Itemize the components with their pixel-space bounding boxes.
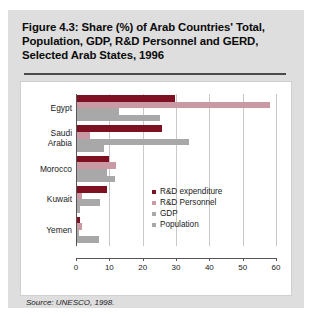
bar-rd-personnel <box>77 102 270 109</box>
bar-rd-expenditure <box>77 156 109 163</box>
legend-item: R&D Personnel <box>152 197 222 208</box>
x-tick-mark <box>276 258 277 261</box>
bar-population <box>77 206 80 213</box>
bar-rd-expenditure <box>77 217 80 224</box>
x-tick-mark <box>176 258 177 261</box>
bar-rd-personnel <box>77 132 90 139</box>
bar-gdp <box>77 169 107 176</box>
bar-population <box>77 176 115 183</box>
x-tick-label: 10 <box>105 263 114 272</box>
bar-population <box>77 145 104 152</box>
legend-swatch-icon <box>152 190 156 194</box>
legend-swatch-icon <box>152 201 156 205</box>
category-label: Morocco <box>20 165 72 175</box>
source-note: Source: UNESCO, 1998. <box>26 298 114 307</box>
x-tick-mark <box>109 258 110 261</box>
legend-swatch-icon <box>152 223 156 227</box>
chart-card: 0102030405060 EgyptSaudi ArabiaMoroccoKu… <box>21 82 291 295</box>
x-tick-label: 40 <box>205 263 214 272</box>
legend-swatch-icon <box>152 212 156 216</box>
x-tick-label: 60 <box>272 263 281 272</box>
x-tick-mark <box>76 258 77 261</box>
legend-item: Population <box>152 219 222 230</box>
category-label: Egypt <box>20 104 72 114</box>
bar-group: Saudi Arabia <box>77 124 276 154</box>
x-tick-label: 20 <box>138 263 147 272</box>
legend-label: Population <box>160 220 199 229</box>
legend-item: GDP <box>152 208 222 219</box>
x-tick-label: 0 <box>74 263 78 272</box>
bar-gdp <box>77 230 79 237</box>
y-axis-line <box>76 94 77 246</box>
gridline <box>276 94 277 246</box>
bar-group: Egypt <box>77 94 276 124</box>
bar-population <box>77 115 160 122</box>
figure-title: Figure 4.3: Share (%) of Arab Countries'… <box>22 20 292 63</box>
chart-legend: R&D expenditureR&D PersonnelGDPPopulatio… <box>152 186 222 230</box>
x-tick-mark <box>209 258 210 261</box>
bar-rd-personnel <box>77 162 116 169</box>
title-divider <box>24 73 286 75</box>
x-tick-mark <box>143 258 144 261</box>
bar-rd-personnel <box>77 223 82 230</box>
bar-gdp <box>77 108 119 115</box>
x-tick-mark <box>243 258 244 261</box>
bar-gdp <box>77 139 189 146</box>
legend-label: R&D expenditure <box>160 187 222 196</box>
category-label: Yemen <box>20 226 72 236</box>
bar-rd-personnel <box>77 193 82 200</box>
bar-group: Morocco <box>77 155 276 185</box>
bar-population <box>77 236 99 243</box>
category-label: Kuwait <box>20 195 72 205</box>
legend-label: R&D Personnel <box>160 198 216 207</box>
category-label: Saudi Arabia <box>20 129 72 148</box>
figure-panel: Figure 4.3: Share (%) of Arab Countries'… <box>8 10 304 308</box>
bar-rd-expenditure <box>77 125 162 132</box>
x-tick-label: 50 <box>238 263 247 272</box>
x-tick-label: 30 <box>172 263 181 272</box>
bar-rd-expenditure <box>77 95 175 102</box>
legend-item: R&D expenditure <box>152 186 222 197</box>
legend-label: GDP <box>160 209 178 218</box>
bar-gdp <box>77 199 100 206</box>
bar-rd-expenditure <box>77 186 107 193</box>
